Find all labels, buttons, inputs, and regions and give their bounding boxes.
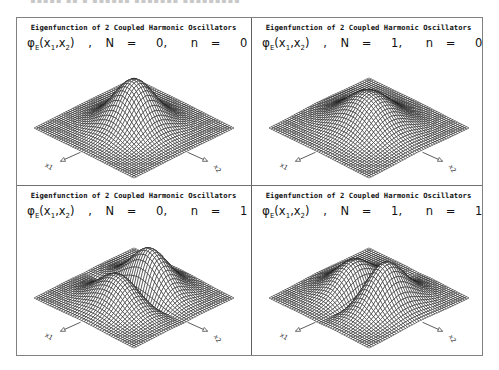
axis-x1-arrow-icon-head	[296, 157, 301, 161]
axis-x2-label: x2	[212, 333, 223, 344]
axis-x2-label: x2	[212, 163, 223, 174]
figure-grid: Eigenfunction of 2 Coupled Harmonic Osci…	[16, 17, 483, 356]
axis-x2-arrow-icon-head	[203, 327, 208, 331]
cropped-text-above: ▪▪▪▪▪ ▪▪ ▪ ▪▪▪▪▪▪ ▪▪▪▪▪▪▪ ▪▪▪▪▪▪▪▪▪	[30, 0, 240, 5]
panel-N0-n0: Eigenfunction of 2 Coupled Harmonic Osci…	[17, 18, 250, 184]
axis-x2-label: x2	[447, 333, 458, 344]
panel-N1-n0: Eigenfunction of 2 Coupled Harmonic Osci…	[252, 18, 485, 184]
axis-x1-arrow-icon-head	[61, 327, 66, 331]
panel-N1-n1: Eigenfunction of 2 Coupled Harmonic Osci…	[252, 186, 485, 356]
axis-x2-arrow-icon-head	[203, 157, 208, 161]
axis-x2-label: x2	[447, 163, 458, 174]
panel-N0-n1: Eigenfunction of 2 Coupled Harmonic Osci…	[17, 186, 250, 356]
axis-x2-arrow-icon-head	[438, 157, 443, 161]
surface-plot: x1x2	[252, 186, 485, 356]
axis-x1-label: x1	[279, 331, 290, 342]
axis-x1-label: x1	[44, 161, 55, 172]
wireframe-mesh	[269, 248, 469, 348]
wireframe-mesh	[34, 248, 234, 348]
axis-x1-arrow-icon-head	[296, 327, 301, 331]
axis-x1-label: x1	[44, 331, 55, 342]
axis-x1-arrow-icon-head	[61, 157, 66, 161]
axis-x2-arrow-icon-head	[438, 327, 443, 331]
surface-plot: x1x2	[17, 186, 250, 356]
axis-x1-label: x1	[279, 161, 290, 172]
wireframe-mesh	[34, 78, 234, 178]
wireframe-mesh	[269, 78, 469, 178]
surface-plot: x1x2	[17, 18, 250, 184]
surface-plot: x1x2	[252, 18, 485, 184]
